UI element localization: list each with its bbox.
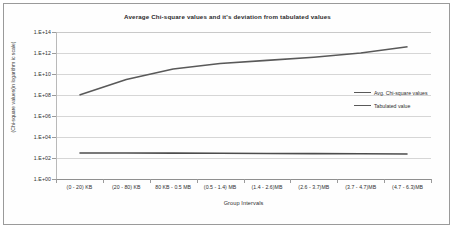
x-axis-title: Group Intervals [56,200,431,206]
x-axis-tick-label: (4.7 - 6.3)MB [392,184,423,190]
x-axis-tick-label: 80 KB - 0.5 MB [155,184,191,190]
x-axis-tick [103,179,104,183]
chart-frame: Average Chi-square values and it's devia… [3,3,450,225]
y-axis-tick-label: 1.E+02 [34,155,51,161]
y-axis-tick-label: 1.E+10 [34,71,51,77]
x-axis-tick [431,179,432,183]
legend-swatch-line [354,105,371,106]
x-axis-tick-label: (1.4 - 2.6)MB [251,184,282,190]
x-axis-tick [56,179,57,183]
x-axis-tick [384,179,385,183]
series-line [79,153,407,154]
y-axis-tick-label: 1.E+00 [34,176,51,182]
legend-label: Avg. Chi-square values [374,90,428,96]
y-axis-tick-label: 1.E+14 [34,29,51,35]
chart-legend: Avg. Chi-square values Tabulated value [354,86,454,112]
x-axis-tick [197,179,198,183]
x-axis-tick [290,179,291,183]
x-axis-tick-label: (20 - 80) KB [112,184,141,190]
x-axis-tick [150,179,151,183]
x-axis-tick-label: (0 - 20) KB [67,184,93,190]
x-axis-tick [244,179,245,183]
x-axis-tick-label: (0.5 - 1.4) MB [204,184,236,190]
legend-swatch-line [354,92,371,93]
x-axis-tick-label: (2.6 - 3.7)MB [298,184,329,190]
y-axis-tick-label: 1.E+06 [34,113,51,119]
chart-title: Average Chi-square values and it's devia… [4,13,451,20]
legend-item-avg-chi-square: Avg. Chi-square values [354,86,454,99]
legend-label: Tabulated value [374,103,410,109]
y-axis-tick-label: 1.E+08 [34,92,51,98]
x-axis-tick [337,179,338,183]
y-axis-tick-label: 1.E+12 [34,50,51,56]
legend-item-tabulated-value: Tabulated value [354,99,454,112]
x-axis-tick-label: (3.7 - 4.7)MB [345,184,376,190]
y-axis-title: (Chi-square values(in logarithm ic scale… [10,12,16,162]
y-axis-tick-label: 1.E+04 [34,134,51,140]
